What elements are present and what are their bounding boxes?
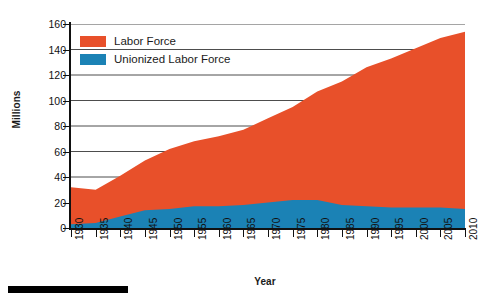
x-tick-label-2000: 2000	[420, 218, 430, 240]
y-tick-mark-100	[63, 101, 70, 102]
x-tick-label-1985: 1985	[346, 218, 356, 240]
x-tick-mark-1970	[268, 230, 269, 237]
x-tick-mark-2005	[440, 230, 441, 237]
y-tick-mark-0	[63, 228, 70, 229]
x-tick-label-1935: 1935	[100, 218, 110, 240]
legend-swatch-labor-force	[80, 36, 106, 47]
chart-legend: Labor Force Unionized Labor Force	[80, 33, 230, 69]
x-tick-mark-1950	[170, 230, 171, 237]
x-tick-label-1955: 1955	[198, 218, 208, 240]
y-tick-label-40: 40	[32, 172, 66, 183]
x-tick-mark-1930	[71, 230, 72, 237]
x-tick-mark-1980	[317, 230, 318, 237]
y-axis-tick-labels: 020406080100120140160	[24, 0, 66, 299]
chart-container: Millions 020406080100120140160 193019351…	[0, 0, 496, 299]
y-tick-mark-120	[63, 75, 70, 76]
y-tick-mark-60	[63, 152, 70, 153]
y-tick-mark-40	[63, 177, 70, 178]
x-tick-label-2005: 2005	[444, 218, 454, 240]
x-tick-mark-1965	[243, 230, 244, 237]
legend-item-unionized-labor-force: Unionized Labor Force	[80, 51, 230, 67]
figure-scale-bar	[8, 286, 128, 293]
x-tick-mark-1975	[293, 230, 294, 237]
x-tick-mark-1960	[219, 230, 220, 237]
y-tick-label-80: 80	[32, 121, 66, 132]
x-tick-label-1960: 1960	[223, 218, 233, 240]
x-tick-mark-1990	[367, 230, 368, 237]
y-tick-mark-80	[63, 126, 70, 127]
x-tick-label-1930: 1930	[75, 218, 85, 240]
y-tick-label-140: 140	[32, 45, 66, 56]
x-tick-label-1995: 1995	[395, 218, 405, 240]
y-tick-mark-20	[63, 203, 70, 204]
x-tick-label-1975: 1975	[297, 218, 307, 240]
x-tick-label-1965: 1965	[247, 218, 257, 240]
x-tick-mark-1985	[342, 230, 343, 237]
x-tick-label-1970: 1970	[272, 218, 282, 240]
x-tick-label-1945: 1945	[149, 218, 159, 240]
y-tick-label-160: 160	[32, 19, 66, 30]
x-tick-mark-2000	[416, 230, 417, 237]
x-tick-mark-1955	[194, 230, 195, 237]
x-tick-mark-1945	[145, 230, 146, 237]
x-tick-mark-1940	[120, 230, 121, 237]
x-tick-label-1950: 1950	[174, 218, 184, 240]
y-tick-mark-160	[63, 24, 70, 25]
legend-label-labor-force: Labor Force	[114, 35, 176, 47]
legend-label-unionized-labor-force: Unionized Labor Force	[114, 53, 230, 65]
legend-swatch-unionized-labor-force	[80, 54, 106, 65]
x-tick-mark-1995	[391, 230, 392, 237]
y-tick-mark-140	[63, 50, 70, 51]
legend-item-labor-force: Labor Force	[80, 33, 230, 49]
x-tick-mark-2010	[465, 230, 466, 237]
y-tick-label-0: 0	[32, 223, 66, 234]
y-tick-label-60: 60	[32, 147, 66, 158]
y-tick-label-120: 120	[32, 70, 66, 81]
y-axis-title: Millions	[11, 70, 22, 150]
x-tick-mark-1935	[96, 230, 97, 237]
x-tick-label-1980: 1980	[321, 218, 331, 240]
x-tick-label-1990: 1990	[371, 218, 381, 240]
y-tick-label-20: 20	[32, 198, 66, 209]
x-tick-label-2010: 2010	[469, 218, 479, 240]
x-tick-label-1940: 1940	[124, 218, 134, 240]
y-tick-label-100: 100	[32, 96, 66, 107]
